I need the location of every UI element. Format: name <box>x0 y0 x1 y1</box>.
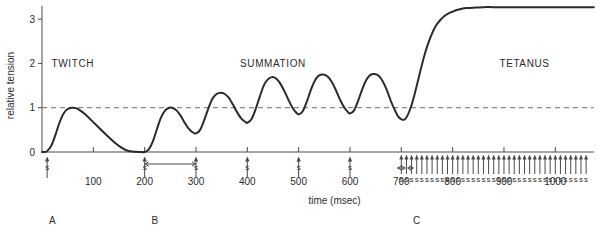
stimulus-train-label: s <box>446 175 450 184</box>
stimulus-train-arrow-head <box>502 155 506 160</box>
stimulus-train-arrow-head <box>476 155 480 160</box>
stimulus-train-label: s <box>440 175 444 184</box>
stimulus-arrow-head <box>245 157 249 162</box>
stimulus-train-arrow-head <box>564 155 568 160</box>
stimulus-arrow-head <box>142 157 146 162</box>
chart-body: 0123relative tension10020030040050060070… <box>5 6 594 226</box>
stimulus-train-arrow-head <box>466 155 470 160</box>
stimulus-train-label: s <box>420 175 424 184</box>
figure-container: 0123relative tension10020030040050060070… <box>0 0 616 234</box>
stimulus-train-label: s <box>538 175 542 184</box>
stimulus-train-label: s <box>553 175 557 184</box>
stimulus-train-label: s <box>512 175 516 184</box>
stimulus-train-label: s <box>528 175 532 184</box>
stimulus-arrow-head <box>194 157 198 162</box>
stimulus-arrow-head <box>45 157 49 162</box>
stimulus-train-arrow-head <box>451 155 455 160</box>
stimulus-train-arrow-head <box>569 155 573 160</box>
stimulus-train-arrow-head <box>425 155 429 160</box>
stimulus-train-arrow-head <box>430 155 434 160</box>
stimulus-train-label: s <box>404 175 408 184</box>
stimulus-label: s <box>297 163 301 172</box>
stimulus-train-arrow-head <box>399 155 403 160</box>
stimulus-train-label: s <box>497 175 501 184</box>
stimulus-train-arrow-head <box>558 155 562 160</box>
annotation-twitch: TWITCH <box>52 58 94 69</box>
stimulus-train-arrow-head <box>435 155 439 160</box>
tension-trace <box>42 7 594 152</box>
stimulus-train-label: s <box>476 175 480 184</box>
stimulus-train-arrow-head <box>497 155 501 160</box>
stimulus-train-label: s <box>517 175 521 184</box>
annotation-summation: SUMMATION <box>240 58 306 69</box>
stimulus-train-label: s <box>399 175 403 184</box>
stimulus-train-arrow-head <box>440 155 444 160</box>
stimulus-label: s <box>245 163 249 172</box>
stimulus-label: s <box>348 163 352 172</box>
stimulus-train-arrow-head <box>420 155 424 160</box>
stimulus-train-label: s <box>533 175 537 184</box>
stimulus-train-arrow-head <box>533 155 537 160</box>
y-axis-title: relative tension <box>5 52 16 119</box>
stimulus-train-label: s <box>471 175 475 184</box>
y-axis-tick-label: 2 <box>29 58 35 69</box>
stimulus-train-arrow-head <box>543 155 547 160</box>
stimulus-train-arrow-head <box>471 155 475 160</box>
stimulus-train-arrow-head <box>415 155 419 160</box>
stimulus-train-label: s <box>579 175 583 184</box>
stimulus-train-arrow-head <box>528 155 532 160</box>
panel-label-a: A <box>49 215 56 226</box>
stimulus-train-arrow-head <box>548 155 552 160</box>
stimulus-train-label: s <box>435 175 439 184</box>
y-axis-tick-label: 1 <box>29 102 35 113</box>
stimulus-train-label: s <box>481 175 485 184</box>
stimulus-train-label: s <box>451 175 455 184</box>
x-axis-title: time (msec) <box>308 195 360 206</box>
panel-label-c: C <box>413 215 420 226</box>
stimulus-train-label: s <box>430 175 434 184</box>
stimulus-train-arrow-head <box>507 155 511 160</box>
stimulus-train-label: s <box>523 175 527 184</box>
stimulus-train-label: s <box>487 175 491 184</box>
stimulus-train-arrow-head <box>538 155 542 160</box>
stimulus-train-label: s <box>410 175 414 184</box>
stimulus-train-arrow-head <box>487 155 491 160</box>
annotation-tetanus: TETANUS <box>499 58 549 69</box>
stimulus-train-arrow-head <box>456 155 460 160</box>
stimulus-train-label: s <box>466 175 470 184</box>
stimulus-train-arrow-head <box>446 155 450 160</box>
stimulus-arrow-head <box>348 157 352 162</box>
stimulus-train-label: s <box>584 175 588 184</box>
stimulus-label: s <box>45 163 49 172</box>
stimulus-train-label: s <box>569 175 573 184</box>
stimulus-train-label: s <box>564 175 568 184</box>
x-axis-tick-label: 100 <box>85 176 102 187</box>
stimulus-train-arrow-head <box>523 155 527 160</box>
y-axis-tick-label: 0 <box>29 147 35 158</box>
stimulus-train-label: s <box>456 175 460 184</box>
stimulus-train-label: s <box>425 175 429 184</box>
muscle-tension-chart: 0123relative tension10020030040050060070… <box>0 0 616 234</box>
stimulus-train-arrow-head <box>512 155 516 160</box>
stimulus-train-arrow-head <box>584 155 588 160</box>
stimulus-train-label: s <box>548 175 552 184</box>
panel-label-b: B <box>152 215 159 226</box>
stimulus-train-arrow-head <box>553 155 557 160</box>
stimulus-train-arrow-head <box>410 155 414 160</box>
stimulus-train-arrow-head <box>481 155 485 160</box>
stimulus-train-label: s <box>415 175 419 184</box>
stimulus-train-label: s <box>574 175 578 184</box>
y-axis-tick-label: 3 <box>29 14 35 25</box>
stimulus-train-arrow-head <box>492 155 496 160</box>
stimulus-train-label: s <box>461 175 465 184</box>
stimulus-train-arrow-head <box>404 155 408 160</box>
stimulus-train-arrow-head <box>517 155 521 160</box>
stimulus-arrow-head <box>296 157 300 162</box>
stimulus-train-label: s <box>558 175 562 184</box>
stimulus-train-arrow-head <box>574 155 578 160</box>
stimulus-train-arrow-head <box>579 155 583 160</box>
stimulus-train-label: s <box>543 175 547 184</box>
stimulus-train-arrow-head <box>461 155 465 160</box>
stimulus-train-label: s <box>492 175 496 184</box>
stimulus-train-label: s <box>507 175 511 184</box>
